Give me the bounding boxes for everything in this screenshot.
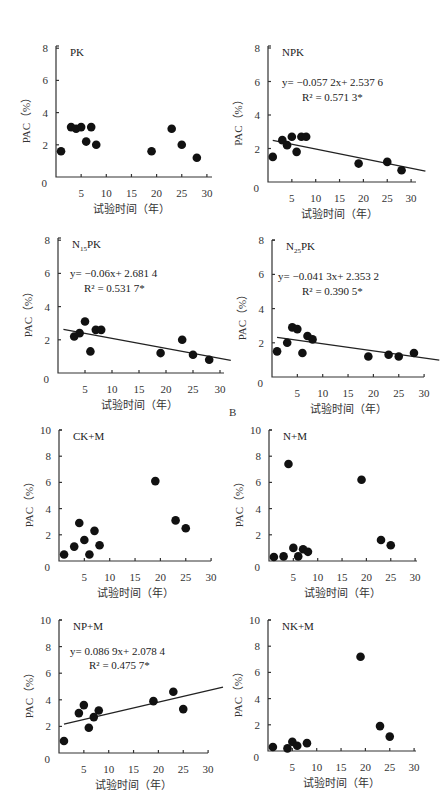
data-point xyxy=(283,141,292,150)
y-tick-label: 6 xyxy=(43,74,49,86)
x-tick-label: 15 xyxy=(336,761,348,773)
data-point xyxy=(179,705,188,714)
data-point xyxy=(97,326,106,335)
data-point xyxy=(273,347,282,356)
y-axis-label: PAC（%） xyxy=(233,476,245,528)
y-tick-label: 4 xyxy=(45,301,51,313)
y-tick-label: 4 xyxy=(43,107,49,119)
x-tick-label: 30 xyxy=(203,763,215,775)
data-point xyxy=(394,352,403,361)
x-tick-label: 15 xyxy=(337,571,349,583)
data-point xyxy=(377,536,386,545)
y-axis-label: PAC（%） xyxy=(23,667,35,719)
data-point xyxy=(70,542,79,551)
x-tick-label: 5 xyxy=(295,387,301,399)
y-tick-label: 6 xyxy=(46,667,52,679)
axes xyxy=(268,46,416,182)
data-point xyxy=(354,159,363,168)
axes xyxy=(269,430,417,561)
scatter-panel-ck-plus-m: 024681051015202530试验时间（年）PAC（%）CK+M xyxy=(23,424,217,600)
y-tick-label: 0 xyxy=(42,177,48,189)
data-point xyxy=(293,325,302,334)
y-axis-label: PAC（%） xyxy=(22,286,34,338)
x-tick-label: 25 xyxy=(382,192,394,204)
x-tick-label: 5 xyxy=(290,761,296,773)
y-axis-label: PAC（%） xyxy=(236,289,248,341)
data-point xyxy=(82,137,91,146)
data-point xyxy=(177,141,186,150)
x-tick-label: 5 xyxy=(289,192,295,204)
data-point xyxy=(386,541,395,550)
x-axis-label: 试验时间（年） xyxy=(97,586,174,600)
y-tick-label: 2 xyxy=(46,720,52,732)
y-tick-label: 6 xyxy=(256,476,262,488)
x-tick-label: 5 xyxy=(78,187,84,199)
data-point xyxy=(279,552,288,561)
x-tick-label: 25 xyxy=(393,387,405,399)
panel-title: NK+M xyxy=(282,620,314,632)
axes xyxy=(268,620,416,751)
y-tick-label: 8 xyxy=(45,234,51,246)
y-tick-label: 8 xyxy=(255,640,261,652)
data-point xyxy=(80,701,89,710)
x-tick-label: 10 xyxy=(312,571,324,583)
scatter-panel-npk: 0246851015202530试验时间（年）PAC（%）NPKy= −0.05… xyxy=(232,42,425,221)
axes xyxy=(56,46,212,177)
x-tick-label: 20 xyxy=(151,187,163,199)
data-point xyxy=(92,141,101,150)
x-tick-label: 15 xyxy=(130,571,142,583)
axes xyxy=(58,238,224,373)
data-point xyxy=(376,722,385,731)
y-tick-label: 0 xyxy=(45,753,51,765)
x-axis-label: 试验时间（年） xyxy=(101,398,178,412)
x-tick-label: 5 xyxy=(291,571,297,583)
panel-title: N+M xyxy=(283,430,307,442)
y-tick-label: 8 xyxy=(43,42,49,54)
section-label-b: B xyxy=(229,406,236,418)
x-tick-label: 25 xyxy=(384,761,396,773)
data-point xyxy=(147,147,156,156)
y-tick-label: 10 xyxy=(40,424,52,436)
x-tick-label: 30 xyxy=(406,192,418,204)
y-tick-label: 4 xyxy=(255,109,261,121)
panel-title: NPK xyxy=(282,46,304,58)
data-point xyxy=(178,336,187,345)
data-point xyxy=(75,519,84,528)
data-point xyxy=(85,723,94,732)
y-tick-label: 4 xyxy=(46,503,52,515)
panel-title: CK+M xyxy=(73,430,104,442)
y-tick-label: 0 xyxy=(44,373,50,385)
y-tick-label: 4 xyxy=(256,503,262,515)
x-tick-label: 20 xyxy=(161,383,173,395)
x-tick-label: 30 xyxy=(206,571,218,583)
r-squared: R² = 0.475 7* xyxy=(89,659,150,671)
x-tick-label: 10 xyxy=(310,192,322,204)
data-point xyxy=(289,544,298,553)
x-tick-label: 30 xyxy=(215,383,227,395)
regression-equation: y= −0.06x+ 2.681 4 xyxy=(70,267,158,279)
x-tick-label: 25 xyxy=(385,571,397,583)
y-tick-label: 6 xyxy=(46,476,52,488)
y-tick-label: 2 xyxy=(256,529,262,541)
x-tick-label: 10 xyxy=(101,187,113,199)
r-squared: R² = 0.390 5* xyxy=(302,285,363,297)
y-tick-label: 10 xyxy=(250,424,262,436)
r-squared: R² = 0.571 3* xyxy=(302,91,363,103)
data-point xyxy=(80,536,89,545)
y-tick-label: 6 xyxy=(255,666,261,678)
x-tick-label: 15 xyxy=(128,763,140,775)
x-axis-label: 试验时间（年） xyxy=(95,778,172,792)
y-tick-label: 10 xyxy=(249,614,261,626)
x-tick-label: 5 xyxy=(81,763,87,775)
data-point xyxy=(292,148,301,157)
data-point xyxy=(205,355,214,364)
y-axis-label: PAC（%） xyxy=(20,92,32,144)
data-point xyxy=(86,347,95,356)
x-tick-label: 10 xyxy=(107,383,119,395)
y-tick-label: 2 xyxy=(255,719,261,731)
y-tick-label: 2 xyxy=(45,334,51,346)
data-point xyxy=(181,524,190,533)
data-point xyxy=(303,739,312,748)
y-tick-label: 2 xyxy=(43,139,49,151)
y-tick-label: 4 xyxy=(46,694,52,706)
